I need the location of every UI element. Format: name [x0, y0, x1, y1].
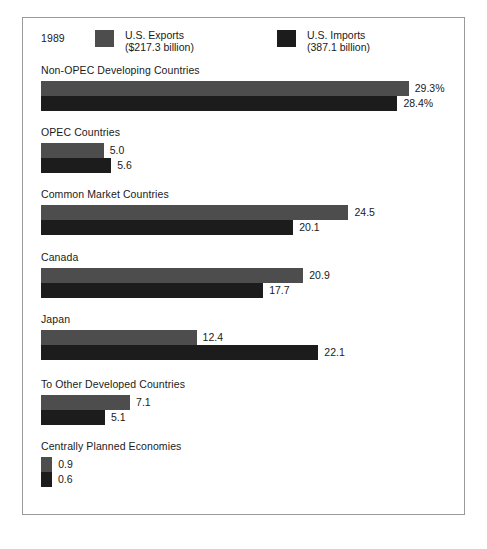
legend-year-label: 1989: [41, 32, 65, 44]
bar-us-exports: [41, 81, 409, 96]
bar-group-label: Non-OPEC Developing Countries: [41, 64, 200, 76]
bar-value-label: 24.5: [354, 207, 374, 218]
bar-value-label: 20.9: [309, 270, 329, 281]
bar-row: 28.4%: [41, 96, 433, 111]
bar-row: 12.4: [41, 330, 223, 345]
bar-us-imports: [41, 283, 263, 298]
bar-row: 17.7: [41, 283, 290, 298]
legend-series-name-us-exports: U.S. Exports: [125, 29, 184, 41]
bar-value-label: 7.1: [136, 397, 151, 408]
bar-row: 22.1: [41, 345, 345, 360]
bar-row: 5.0: [41, 143, 124, 158]
bar-value-label: 5.0: [110, 145, 125, 156]
legend-item-us-imports: U.S. Imports (387.1 billion): [277, 29, 370, 54]
chart-frame: 1989 U.S. Exports ($217.3 billion) U.S. …: [22, 17, 465, 515]
legend-series-amount-us-imports: (387.1 billion): [307, 41, 370, 53]
bar-row: 7.1: [41, 395, 151, 410]
bar-group-label: Japan: [41, 313, 70, 325]
bar-us-imports: [41, 345, 318, 360]
legend-label-us-exports: U.S. Exports ($217.3 billion): [125, 29, 194, 54]
bar-group-label: To Other Developed Countries: [41, 378, 185, 390]
bar-us-exports: [41, 205, 348, 220]
legend-swatch-us-exports: [95, 30, 114, 47]
bar-value-label: 0.6: [58, 474, 73, 485]
bar-us-exports: [41, 268, 303, 283]
bar-us-imports: [41, 410, 105, 425]
bar-value-label: 28.4%: [403, 98, 433, 109]
bar-row: 5.6: [41, 158, 132, 173]
bar-us-exports: [41, 457, 52, 472]
bar-value-label: 29.3%: [415, 83, 445, 94]
bar-group-label: Centrally Planned Economies: [41, 440, 181, 452]
bar-value-label: 12.4: [203, 332, 223, 343]
legend-item-us-exports: U.S. Exports ($217.3 billion): [95, 29, 194, 54]
bar-us-imports: [41, 96, 397, 111]
bar-row: 5.1: [41, 410, 126, 425]
chart-legend: 1989 U.S. Exports ($217.3 billion) U.S. …: [23, 18, 464, 64]
bar-group-label: OPEC Countries: [41, 126, 120, 138]
bar-value-label: 22.1: [324, 347, 344, 358]
bar-value-label: 5.1: [111, 412, 126, 423]
bar-value-label: 17.7: [269, 285, 289, 296]
bar-us-imports: [41, 472, 52, 487]
bar-row: 20.1: [41, 220, 320, 235]
bar-us-exports: [41, 395, 130, 410]
bar-value-label: 0.9: [58, 459, 73, 470]
bar-row: 0.6: [41, 472, 73, 487]
bar-row: 24.5: [41, 205, 375, 220]
bar-group-label: Canada: [41, 251, 78, 263]
bar-us-exports: [41, 330, 197, 345]
bar-groups-container: Non-OPEC Developing Countries29.3%28.4%O…: [23, 64, 464, 514]
bar-us-imports: [41, 158, 111, 173]
legend-series-amount-us-exports: ($217.3 billion): [125, 41, 194, 53]
bar-group-label: Common Market Countries: [41, 188, 169, 200]
legend-series-name-us-imports: U.S. Imports: [307, 29, 365, 41]
legend-swatch-us-imports: [277, 30, 296, 47]
legend-label-us-imports: U.S. Imports (387.1 billion): [307, 29, 370, 54]
bar-row: 0.9: [41, 457, 73, 472]
bar-value-label: 20.1: [299, 222, 319, 233]
bar-us-imports: [41, 220, 293, 235]
bar-row: 20.9: [41, 268, 330, 283]
bar-value-label: 5.6: [117, 160, 132, 171]
bar-us-exports: [41, 143, 104, 158]
bar-row: 29.3%: [41, 81, 444, 96]
